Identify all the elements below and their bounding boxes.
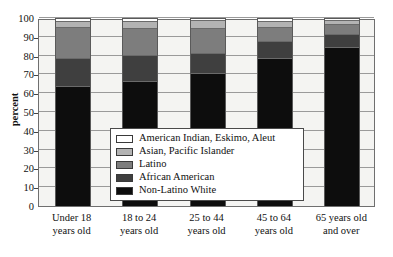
y-tick-label: 90 bbox=[2, 33, 34, 44]
bar-segment bbox=[123, 55, 157, 81]
y-tick-label: 40 bbox=[2, 127, 34, 138]
legend-item-2: Asian, Pacific Islander bbox=[116, 145, 299, 158]
legend-swatch bbox=[116, 187, 133, 195]
x-tick-label-line: 65 years old bbox=[298, 212, 384, 225]
legend-swatch bbox=[116, 174, 133, 182]
bar-segment bbox=[56, 86, 90, 206]
y-tick-label: 60 bbox=[2, 89, 34, 100]
bar-segment bbox=[191, 53, 225, 74]
y-tick-label: 100 bbox=[2, 14, 34, 25]
y-tick-label: 0 bbox=[2, 202, 34, 213]
y-tick-label: 30 bbox=[2, 145, 34, 156]
bar-segment bbox=[325, 34, 359, 47]
bar-segment bbox=[191, 20, 225, 28]
legend-swatch bbox=[116, 161, 133, 169]
x-tick-label-line: and over bbox=[298, 225, 384, 238]
legend-item-5: Non-Latino White bbox=[116, 184, 299, 197]
legend-label: Non-Latino White bbox=[139, 185, 216, 196]
legend-item-3: Latino bbox=[116, 158, 299, 171]
x-tick-label: 65 years oldand over bbox=[298, 212, 384, 238]
bar-segment bbox=[56, 27, 90, 58]
legend-swatch bbox=[116, 148, 133, 156]
bar-segment bbox=[123, 21, 157, 28]
bar-5 bbox=[324, 18, 360, 206]
bar-segment bbox=[123, 28, 157, 54]
legend-label: American Indian, Eskimo, Aleut bbox=[139, 133, 275, 144]
y-tick-label: 80 bbox=[2, 51, 34, 62]
bar-segment bbox=[56, 58, 90, 86]
legend-item-1: American Indian, Eskimo, Aleut bbox=[116, 132, 299, 145]
y-tick-label: 20 bbox=[2, 164, 34, 175]
bar-segment bbox=[258, 27, 292, 41]
bar-segment bbox=[258, 41, 292, 58]
bar-segment bbox=[191, 28, 225, 52]
y-tick-label: 50 bbox=[2, 108, 34, 119]
y-tick-label: 70 bbox=[2, 70, 34, 81]
legend: American Indian, Eskimo, AleutAsian, Pac… bbox=[110, 128, 304, 201]
legend-label: African American bbox=[139, 172, 215, 183]
y-tick-label: 10 bbox=[2, 183, 34, 194]
legend-label: Latino bbox=[139, 159, 166, 170]
legend-swatch bbox=[116, 135, 133, 143]
bar-segment bbox=[325, 24, 359, 34]
bar-1 bbox=[55, 18, 91, 206]
legend-item-4: African American bbox=[116, 171, 299, 184]
bar-segment bbox=[325, 47, 359, 206]
chart-figure: percent 1009080706050403020100 Under 18y… bbox=[0, 0, 393, 257]
legend-label: Asian, Pacific Islander bbox=[139, 146, 234, 157]
